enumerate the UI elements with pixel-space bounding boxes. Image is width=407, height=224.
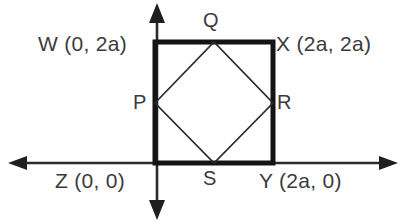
- vertex-label-w: W (0, 2a): [38, 33, 127, 54]
- vertex-label-r: R: [277, 92, 292, 112]
- vertex-label-z: Z (0, 0): [55, 170, 125, 191]
- x-axis-left-arrowhead: [8, 156, 27, 170]
- vertex-label-p: P: [133, 92, 147, 112]
- geometry-figure: W (0, 2a) X (2a, 2a) Y (2a, 0) Z (0, 0) …: [0, 0, 407, 224]
- vertex-label-q: Q: [203, 10, 219, 30]
- y-axis-down-arrowhead: [149, 200, 165, 220]
- vertex-label-s: S: [203, 168, 217, 188]
- outer-square-WXYZ: [155, 42, 273, 163]
- y-axis-up-arrowhead: [149, 3, 165, 23]
- vertex-label-x: X (2a, 2a): [276, 33, 371, 54]
- inner-square-PQRS: [155, 42, 273, 163]
- x-axis-right-arrowhead: [379, 156, 398, 170]
- vertex-label-y: Y (2a, 0): [259, 170, 342, 191]
